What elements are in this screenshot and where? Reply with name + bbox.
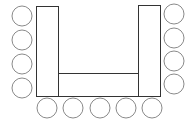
seat-left-4 <box>12 78 32 98</box>
seat-right-2 <box>164 28 184 48</box>
seat-left-1 <box>12 6 32 26</box>
tables-group <box>37 6 161 97</box>
seat-right-1 <box>164 4 184 24</box>
seat-bottom-4 <box>116 98 136 118</box>
center-table <box>59 74 139 97</box>
seat-bottom-1 <box>37 98 57 118</box>
seat-bottom-2 <box>63 98 83 118</box>
seat-bottom-3 <box>90 98 110 118</box>
u-shape-seating-diagram <box>0 0 191 124</box>
left-table <box>37 7 59 97</box>
seat-right-4 <box>164 74 184 94</box>
right-table <box>139 6 161 97</box>
seat-left-2 <box>12 30 32 50</box>
seat-right-3 <box>164 51 184 71</box>
seat-bottom-5 <box>142 98 162 118</box>
seat-left-3 <box>12 54 32 74</box>
